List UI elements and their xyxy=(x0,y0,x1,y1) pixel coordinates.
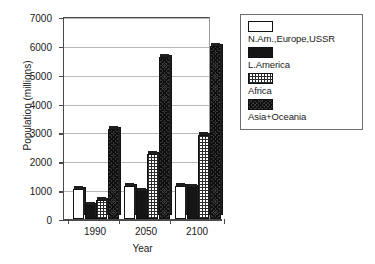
bar-top-face xyxy=(109,126,118,129)
bar-top-face xyxy=(125,183,134,186)
bar-top-face xyxy=(148,151,157,154)
x-axis-tick xyxy=(68,219,69,224)
legend-entry[interactable]: N.Am.,Europe,USSR xyxy=(248,21,356,45)
gridline xyxy=(64,133,209,134)
bar-top-face xyxy=(199,132,208,135)
bar-top-face xyxy=(188,184,197,187)
bar-top-face xyxy=(211,43,220,46)
y-axis-tick-label: 2000 xyxy=(30,157,52,168)
bar-top-face xyxy=(74,186,83,189)
legend-entry[interactable]: L.America xyxy=(248,47,356,71)
legend: N.Am.,Europe,USSRL.AmericaAfricaAsia+Oce… xyxy=(240,14,363,130)
x-axis-title: Year xyxy=(63,243,222,254)
legend-swatch xyxy=(248,21,273,32)
legend-entry[interactable]: Asia+Oceania xyxy=(248,99,356,123)
bar-top-face xyxy=(176,183,185,186)
bar xyxy=(124,186,135,219)
x-axis-tick-label: 2050 xyxy=(135,226,157,237)
bar xyxy=(159,57,170,219)
y-axis-tick: 4000 xyxy=(59,105,64,106)
bar-top-face xyxy=(97,197,106,200)
x-axis-tick-label: 1990 xyxy=(84,226,106,237)
chart-figure: Population (millions) 010002000300040005… xyxy=(0,0,375,264)
x-axis-tick xyxy=(224,219,225,224)
x-axis-tick xyxy=(119,219,120,224)
legend-swatch xyxy=(248,47,273,58)
gridline xyxy=(64,47,209,48)
y-axis-tick: 7000 xyxy=(59,18,64,19)
y-axis-tick-label: 0 xyxy=(46,215,52,226)
y-axis-tick: 6000 xyxy=(59,47,64,48)
legend-entry[interactable]: Africa xyxy=(248,73,356,97)
y-axis-tick-label: 6000 xyxy=(30,41,52,52)
bar xyxy=(85,205,96,219)
bar xyxy=(210,46,221,219)
bar xyxy=(73,189,84,219)
bar xyxy=(136,191,147,219)
legend-swatch xyxy=(248,99,273,110)
gridline xyxy=(64,18,209,19)
y-axis-tick: 2000 xyxy=(59,162,64,163)
bar xyxy=(175,186,186,219)
bar-shadow xyxy=(169,55,172,215)
x-axis-tick-label: 2100 xyxy=(186,226,208,237)
legend-label: L.America xyxy=(248,58,356,71)
plot-area: 01000200030004000500060007000 xyxy=(63,17,210,219)
y-axis-tick: 3000 xyxy=(59,133,64,134)
y-axis-tick-label: 1000 xyxy=(30,186,52,197)
y-axis-tick-label: 4000 xyxy=(30,99,52,110)
gridline xyxy=(64,105,209,106)
bar xyxy=(108,129,119,219)
bar-shadow xyxy=(118,127,121,215)
y-axis-tick: 5000 xyxy=(59,76,64,77)
bar xyxy=(187,187,198,219)
legend-label: Africa xyxy=(248,84,356,97)
legend-label: N.Am.,Europe,USSR xyxy=(248,32,356,45)
bar-top-face xyxy=(160,54,169,57)
bar-top-face xyxy=(137,188,146,191)
bar xyxy=(198,135,209,219)
gridline xyxy=(64,162,209,163)
bar xyxy=(96,200,107,219)
x-axis-line xyxy=(63,219,222,221)
bar xyxy=(147,154,158,219)
y-axis-tick-label: 3000 xyxy=(30,128,52,139)
y-axis-tick: 1000 xyxy=(59,191,64,192)
x-axis-tick xyxy=(170,219,171,224)
legend-label: Asia+Oceania xyxy=(248,110,356,123)
legend-swatch xyxy=(248,73,273,84)
y-axis-tick-label: 5000 xyxy=(30,70,52,81)
bar-top-face xyxy=(86,202,95,205)
gridline xyxy=(64,76,209,77)
bar-shadow xyxy=(220,44,223,215)
y-axis-tick-label: 7000 xyxy=(30,13,52,24)
